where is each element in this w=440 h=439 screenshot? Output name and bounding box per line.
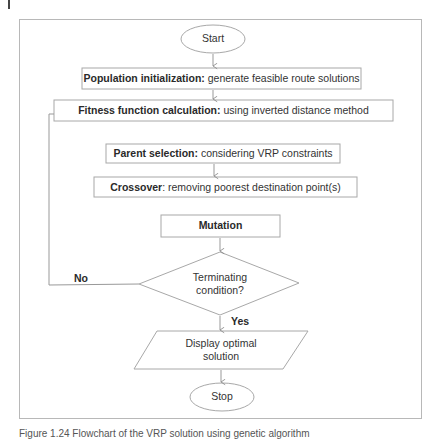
fitness-title: Fitness function calculation: [78,104,220,116]
mutation-text: Mutation [161,219,280,232]
fitness-text: Fitness function calculation: using inve… [54,104,393,117]
decision-line2: condition? [160,284,280,297]
decision-text: Terminating condition? [160,271,280,297]
crossover-text: Crossover: removing poorest destination … [94,181,357,194]
parent-title: Parent selection: [113,147,198,159]
population-title: Population initialization: [83,72,204,84]
start-label: Start [181,32,245,45]
output-line2: solution [161,350,281,363]
crossover-desc: : removing poorest destination point(s) [162,181,341,193]
output-text: Display optimal solution [161,337,281,363]
population-text: Population initialization: generate feas… [82,72,361,85]
population-desc: generate feasible route solutions [205,72,360,84]
no-loop-line [49,114,139,285]
output-line1: Display optimal [161,337,281,350]
yes-label: Yes [231,315,249,327]
stop-label: Stop [190,390,254,403]
figure-caption: Figure 1.24 Flowchart of the VRP solutio… [19,428,310,439]
mutation-title: Mutation [199,219,243,231]
parent-desc: considering VRP constraints [198,147,333,159]
crossover-title: Crossover [110,181,162,193]
decision-line1: Terminating [160,271,280,284]
parent-text: Parent selection: considering VRP constr… [106,147,340,160]
no-label: No [74,272,88,284]
fitness-desc: using inverted distance method [221,104,369,116]
